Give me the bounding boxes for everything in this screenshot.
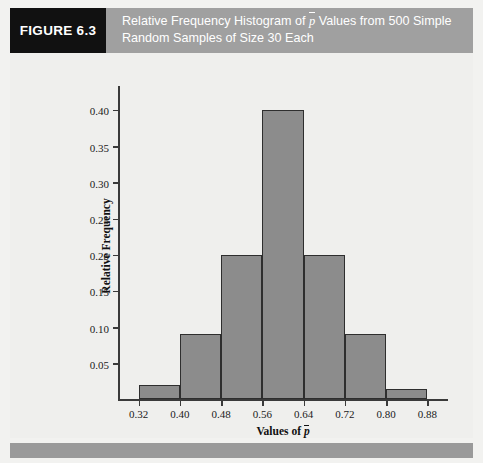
y-axis-tick-label: 0.30	[90, 178, 109, 190]
y-axis-tick-label: 0.20	[90, 250, 109, 262]
figure-caption: Relative Frequency Histogram of p Values…	[106, 8, 473, 53]
figure-page: FIGURE 6.3 Relative Frequency Histogram …	[0, 0, 483, 463]
x-axis-tick-label: 0.56	[253, 408, 272, 420]
x-axis-line	[118, 399, 448, 401]
y-axis-tick-label: 0.25	[90, 214, 109, 226]
x-axis-tick-label: 0.88	[418, 408, 437, 420]
histogram-bar	[139, 385, 180, 399]
histogram-bar	[345, 334, 386, 399]
y-axis-tick	[113, 219, 119, 220]
caption-line1-part-b: Values from 500 Simple	[315, 14, 451, 28]
caption-line1-part-a: Relative Frequency Histogram of	[122, 14, 309, 28]
histogram-bar	[262, 110, 303, 400]
figure-header: FIGURE 6.3 Relative Frequency Histogram …	[10, 8, 473, 53]
y-axis-tick	[113, 110, 119, 111]
y-axis-label: Relative Frequency	[100, 198, 112, 293]
histogram-bar	[304, 255, 345, 400]
x-axis-tick-label: 0.64	[294, 408, 313, 420]
figure-number-badge: FIGURE 6.3	[10, 8, 106, 53]
y-axis-tick-label: 0.10	[90, 323, 109, 335]
x-axis-tick	[262, 400, 263, 406]
x-axis-tick-label: 0.80	[377, 408, 396, 420]
x-axis-tick	[386, 400, 387, 406]
y-axis-tick	[113, 291, 119, 292]
histogram-plot: 0.050.100.150.200.250.300.350.400.320.40…	[118, 86, 448, 401]
footer-bar	[10, 443, 473, 458]
y-axis-line	[118, 86, 120, 401]
x-axis-tick	[221, 400, 222, 406]
histogram-bar	[180, 334, 221, 399]
caption-line2: Random Samples of Size 30 Each	[122, 31, 314, 45]
y-axis-tick-label: 0.05	[90, 359, 109, 371]
x-axis-tick	[139, 400, 140, 406]
y-axis-tick	[113, 146, 119, 147]
histogram-bar	[221, 255, 262, 400]
y-axis-tick-label: 0.15	[90, 286, 109, 298]
x-axis-tick	[345, 400, 346, 406]
x-axis-tick-label: 0.72	[335, 408, 354, 420]
y-axis-tick-label: 0.35	[90, 142, 109, 154]
p-bar-symbol-caption: p	[309, 13, 315, 30]
x-axis-label-prefix: Values of	[256, 425, 304, 437]
x-axis-label: Values of p	[118, 425, 448, 437]
y-axis-tick	[113, 363, 119, 364]
histogram-bar	[386, 389, 427, 400]
y-axis-tick	[113, 182, 119, 183]
x-axis-tick	[180, 400, 181, 406]
y-axis-tick	[113, 327, 119, 328]
x-axis-tick-label: 0.48	[212, 408, 231, 420]
p-bar-symbol-axis: p	[304, 425, 310, 437]
x-axis-tick-label: 0.32	[129, 408, 148, 420]
y-axis-tick	[113, 255, 119, 256]
x-axis-tick	[304, 400, 305, 406]
chart-area: Relative Frequency 0.050.100.150.200.250…	[10, 53, 473, 438]
x-axis-tick-label: 0.40	[170, 408, 189, 420]
y-axis-tick-label: 0.40	[90, 105, 109, 117]
x-axis-tick	[427, 400, 428, 406]
